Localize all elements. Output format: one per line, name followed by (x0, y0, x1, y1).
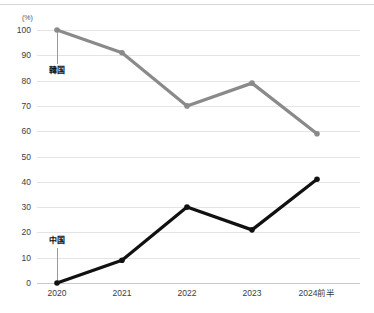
y-tick-label: 90 (22, 50, 32, 60)
chart-canvas: 0102030405060708090100 20202021202220232… (0, 0, 374, 313)
x-tick-label: 2023 (243, 288, 262, 298)
series-line-中国 (57, 179, 317, 283)
data-point-marker (249, 80, 255, 86)
y-tick-label: 30 (22, 202, 32, 212)
y-axis-unit-label: (%) (22, 14, 33, 22)
y-tick-label: 100 (17, 25, 31, 35)
y-tick-label: 60 (22, 126, 32, 136)
series-markers-group (54, 27, 320, 286)
y-tick-label: 40 (22, 177, 32, 187)
data-point-marker (249, 227, 255, 233)
data-point-marker (54, 280, 60, 286)
y-tick-label: 10 (22, 253, 32, 263)
data-point-marker (119, 257, 125, 263)
data-point-marker (314, 176, 320, 182)
x-tick-label: 2024前半 (299, 288, 336, 298)
y-tick-label: 80 (22, 76, 32, 86)
y-tick-label: 50 (22, 152, 32, 162)
y-axis-tick-labels: 0102030405060708090100 (17, 25, 31, 288)
x-tick-label: 2020 (48, 288, 67, 298)
data-point-marker (54, 27, 60, 33)
series-annotations-group: 韓国中国 (49, 30, 65, 283)
y-tick-label: 20 (22, 227, 32, 237)
data-point-marker (314, 131, 320, 137)
series-lines-group (57, 30, 317, 283)
y-tick-label: 70 (22, 101, 32, 111)
series-label-韓国: 韓国 (49, 65, 65, 75)
y-tick-label: 0 (26, 278, 31, 288)
x-tick-label: 2021 (113, 288, 132, 298)
x-tick-label: 2022 (178, 288, 197, 298)
line-chart: 0102030405060708090100 20202021202220232… (0, 0, 374, 313)
data-point-marker (184, 204, 190, 210)
gridlines-group (37, 31, 360, 284)
data-point-marker (184, 103, 190, 109)
series-label-中国: 中国 (49, 235, 65, 245)
x-axis-tick-labels: 20202021202220232024前半 (48, 288, 336, 298)
data-point-marker (119, 50, 125, 56)
